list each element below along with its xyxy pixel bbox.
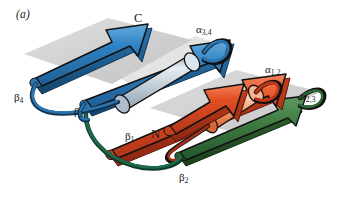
alpha-3-4-label: α3,4 bbox=[196, 24, 212, 36]
alpha-2-3-label: α2,3 bbox=[300, 91, 316, 103]
beta-2-sub: 2 bbox=[185, 176, 189, 185]
c-terminus-label: C bbox=[134, 12, 142, 25]
beta-4-label: β4 bbox=[14, 92, 24, 104]
beta-4-sub: 4 bbox=[20, 96, 24, 105]
n-terminus-label: N bbox=[151, 128, 160, 141]
alpha-1-2-label: α1,2 bbox=[265, 64, 281, 76]
beta-3-sub: 3 bbox=[80, 110, 84, 119]
alpha-3-4-sub: 3,4 bbox=[202, 28, 212, 37]
beta-1-sub: 1 bbox=[131, 135, 135, 144]
alpha-2-3-sub: 2,3 bbox=[306, 95, 316, 104]
topology-diagram-canvas bbox=[0, 0, 342, 199]
beta-3-label: β3 bbox=[74, 106, 84, 118]
alpha-1-2-sub: 1,2 bbox=[271, 68, 281, 77]
panel-id-label: (a) bbox=[16, 9, 30, 21]
figure-panel: (a) C N β4 β3 β1 β2 α3,4 α1,2 α2,3 bbox=[0, 0, 342, 199]
beta-2-label: β2 bbox=[179, 172, 189, 184]
beta-1-label: β1 bbox=[125, 131, 135, 143]
